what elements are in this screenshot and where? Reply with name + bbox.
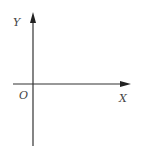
coordinate-axes-diagram: Y O X — [0, 0, 143, 154]
x-axis-label: X — [118, 92, 128, 105]
x-axis-arrow-icon — [120, 81, 131, 87]
y-axis-arrow-icon — [30, 12, 36, 23]
y-axis-label: Y — [13, 16, 22, 29]
origin-label: O — [19, 89, 28, 102]
